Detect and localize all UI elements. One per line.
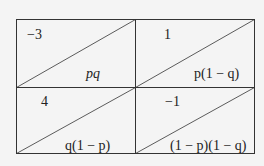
payoff-top-left: −3 xyxy=(27,28,42,42)
probability-bottom-right: (1 − p)(1 − q) xyxy=(170,139,246,153)
probability-bottom-left: q(1 − p) xyxy=(65,139,110,153)
payoff-bottom-left: 4 xyxy=(41,95,48,109)
probability-top-left: pq xyxy=(86,67,100,81)
payoff-bottom-right: −1 xyxy=(165,95,180,109)
payoff-top-right: 1 xyxy=(164,28,171,42)
probability-top-right: p(1 − q) xyxy=(194,67,239,81)
